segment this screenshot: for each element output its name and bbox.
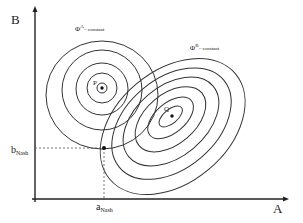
point-p-label: P <box>93 79 97 87</box>
phi-b-contour-3 <box>123 74 218 165</box>
y-axis-arrow-icon <box>33 6 38 12</box>
phi-b-contour-2 <box>140 89 201 147</box>
b-nash-subscript: Nash <box>16 150 28 156</box>
nash-guides <box>35 146 106 199</box>
x-axis-label: A <box>273 201 283 216</box>
nash-point <box>102 146 106 150</box>
a-nash-subscript: Nash <box>100 207 112 213</box>
phi-b-contour-6 <box>74 31 272 222</box>
phi-b-contours <box>74 31 272 222</box>
a-nash-label: aNash <box>96 201 113 213</box>
b-nash-label: bNash <box>11 144 28 156</box>
x-axis-arrow-icon <box>283 197 289 202</box>
point-p-marker <box>100 86 103 89</box>
y-axis-label: B <box>11 12 20 27</box>
phi-b-rest: = constant <box>198 46 219 51</box>
point-q-label: Q <box>164 105 169 113</box>
axes <box>32 6 289 202</box>
point-q-marker <box>170 114 173 117</box>
phi-a-contours <box>46 41 158 149</box>
phi-b-label: ΦB= constant <box>190 43 220 52</box>
nash-equilibrium-diagram: P Q ΦA= constant ΦB= constant B A bNash … <box>0 0 303 223</box>
phi-b-contour-5 <box>90 45 252 201</box>
phi-a-label: ΦA= constant <box>75 24 105 33</box>
phi-a-rest: = constant <box>84 27 105 32</box>
